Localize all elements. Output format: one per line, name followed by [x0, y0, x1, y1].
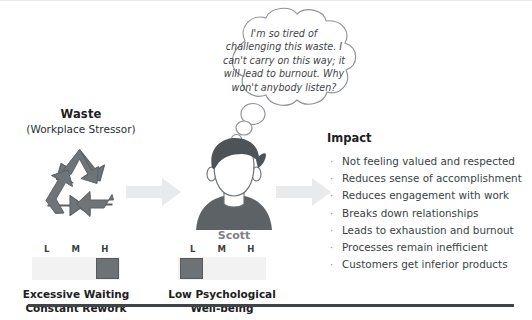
- bullet-icon: ·: [330, 256, 333, 273]
- waste-scale-letters: L M H: [32, 244, 120, 257]
- bottom-divider: [28, 304, 514, 307]
- impact-item-text: Not feeling valued and respected: [342, 155, 515, 167]
- impact-item-text: Leads to exhaustion and burnout: [342, 224, 514, 236]
- bullet-icon: ·: [330, 239, 333, 256]
- waste-caption-line-1: Excessive Waiting: [1, 287, 151, 301]
- wellbeing-scale-label-h: H: [237, 244, 265, 254]
- bullet-icon: ·: [330, 187, 333, 204]
- wellbeing-scale-letters: L M H: [178, 244, 266, 257]
- impact-list-item: · Leads to exhaustion and burnout: [327, 222, 532, 239]
- impact-list: · Not feeling valued and respected · Red…: [327, 153, 532, 273]
- waste-title: Waste: [6, 107, 156, 121]
- thought-bubble-text: I'm so tired of challenging this waste. …: [222, 27, 346, 94]
- impact-item-text: Breaks down relationships: [342, 207, 479, 219]
- impact-item-text: Reduces engagement with work: [342, 189, 509, 201]
- impact-list-item: · Reduces engagement with work: [327, 187, 532, 204]
- impact-item-text: Reduces sense of accomplishment: [342, 172, 522, 184]
- bullet-icon: ·: [330, 222, 333, 239]
- waste-scale-label-m: M: [62, 244, 90, 254]
- person-avatar-icon: [186, 138, 282, 230]
- wellbeing-scale-track: [178, 257, 266, 280]
- waste-scale-marker-high: [96, 258, 119, 279]
- waste-scale-label-l: L: [33, 244, 61, 254]
- impact-list-item: · Processes remain inefficient: [327, 239, 532, 256]
- bullet-icon: ·: [330, 205, 333, 222]
- person-name-label: Scott: [172, 229, 296, 242]
- impact-list-item: · Reduces sense of accomplishment: [327, 170, 532, 187]
- waste-heading-group: Waste (Workplace Stressor): [6, 107, 156, 135]
- impact-title: Impact: [327, 131, 532, 145]
- wellbeing-scale-label-m: M: [208, 244, 236, 254]
- impact-item-text: Processes remain inefficient: [342, 241, 488, 253]
- arrow-right-icon-person-to-impact: [276, 177, 332, 207]
- diagram-canvas: Waste (Workplace Stressor) L M H: [0, 0, 532, 320]
- waste-scale-track: [32, 257, 120, 280]
- waste-caption: Excessive Waiting Constant Rework: [1, 287, 151, 315]
- impact-list-item: · Not feeling valued and respected: [327, 153, 532, 170]
- impact-item-text: Customers get inferior products: [342, 258, 508, 270]
- wellbeing-scale-marker-low: [180, 258, 203, 279]
- wellbeing-caption: Low Psychological Well-being: [147, 287, 297, 315]
- waste-subtitle: (Workplace Stressor): [6, 123, 156, 135]
- bullet-icon: ·: [330, 170, 333, 187]
- arrow-right-icon-waste-to-person: [126, 177, 182, 207]
- wellbeing-caption-line-1: Low Psychological: [147, 287, 297, 301]
- impact-section: Impact · Not feeling valued and respecte…: [327, 131, 532, 273]
- wellbeing-scale-label-l: L: [179, 244, 207, 254]
- recycle-icon: [34, 143, 126, 235]
- impact-list-item: · Customers get inferior products: [327, 256, 532, 273]
- bullet-icon: ·: [330, 153, 333, 170]
- waste-scale-label-h: H: [91, 244, 119, 254]
- impact-list-item: · Breaks down relationships: [327, 205, 532, 222]
